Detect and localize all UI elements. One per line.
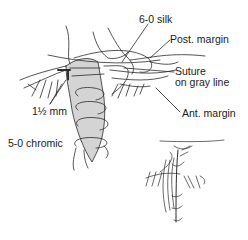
label-post-margin: Post. margin (170, 34, 229, 45)
eyelid-suture-diagram: 6-0 silk Post. margin Suture on gray lin… (0, 0, 248, 240)
label-measurement: 1½ mm (32, 106, 67, 117)
leader-silk (122, 24, 148, 62)
leader-suture (124, 68, 174, 72)
leader-ant-margin (156, 88, 180, 112)
label-ant-margin: Ant. margin (182, 108, 236, 119)
lower-figure (146, 140, 224, 222)
label-5-0-chromic: 5-0 chromic (8, 138, 63, 149)
leader-mm-2 (50, 80, 66, 104)
label-6-0-silk: 6-0 silk (139, 14, 172, 25)
label-suture-on-gray-line: Suture on gray line (175, 66, 229, 88)
